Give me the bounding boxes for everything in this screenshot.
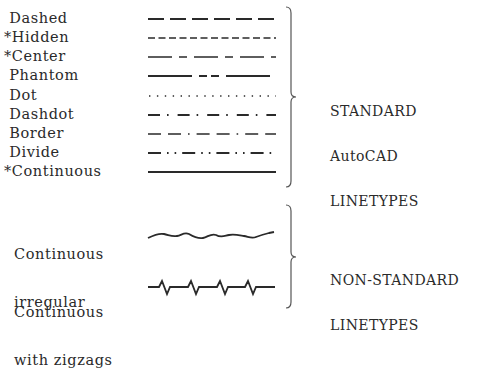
brace-standard: [286, 7, 296, 187]
line-zigzag: [148, 281, 275, 294]
brace-non-standard: [286, 205, 296, 308]
line-irregular: [148, 232, 274, 238]
group-label-line: LINETYPES: [330, 318, 459, 333]
label-line: with zigzags: [14, 352, 113, 368]
